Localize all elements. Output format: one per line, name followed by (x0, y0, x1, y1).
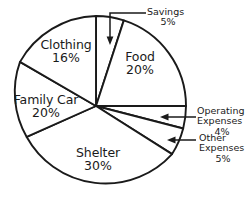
pie-label-savings: Savings 5% (147, 7, 207, 28)
pie-label-savings-value: 5% (147, 17, 189, 27)
pie-label-food: Food 20% (112, 50, 168, 77)
pie-label-savings-name: Savings (147, 7, 207, 17)
pie-label-clothing: Clothing 16% (31, 38, 101, 65)
pie-label-shelter: Shelter 30% (62, 146, 134, 173)
clipped-header-artifact (46, 0, 49, 5)
pie-label-family-car: Family Car 20% (6, 93, 86, 120)
pie-label-clothing-value: 16% (31, 51, 101, 64)
pie-label-clothing-name: Clothing (31, 38, 101, 51)
pie-label-food-name: Food (112, 50, 168, 63)
pie-label-family-car-name: Family Car (6, 93, 86, 106)
pie-chart-figure: Food 20% Clothing 16% Family Car 20% She… (0, 0, 251, 202)
pie-label-other-expenses-value: 5% (199, 154, 247, 164)
pie-label-shelter-value: 30% (62, 159, 134, 172)
pie-label-family-car-value: 20% (6, 106, 86, 119)
pie-label-shelter-name: Shelter (62, 146, 134, 159)
pie-label-other-expenses-name-line2: Expenses (199, 143, 251, 153)
pie-label-other-expenses: Other Expenses 5% (199, 133, 251, 164)
pie-label-operating-expenses-name-line2: Expenses (197, 116, 251, 126)
pie-label-food-value: 20% (112, 63, 168, 76)
